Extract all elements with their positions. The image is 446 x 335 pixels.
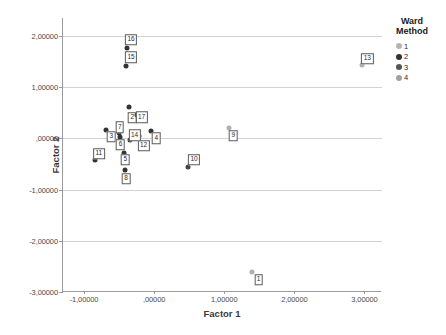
x-tick-label: ,00000 [143,295,165,304]
legend-label: 1 [404,42,408,51]
data-point-label: 10 [188,154,200,166]
gridline-horizontal [63,36,382,37]
y-tick-label: 2,00000 [5,31,63,40]
data-point-label: 1 [254,274,263,286]
legend-row[interactable]: 4 [396,73,446,82]
data-point[interactable] [126,104,131,109]
data-point-label: 13 [361,53,373,65]
legend-swatch-icon [396,43,402,49]
x-tick-label: 1,00000 [211,295,237,304]
legend-title-line1: Ward [388,16,436,26]
data-point-label: 11 [93,148,105,160]
data-point[interactable] [124,45,129,50]
data-point-label: 6 [116,139,125,151]
data-point[interactable] [122,168,127,173]
x-tick-label: 3,00000 [351,295,377,304]
scatter-plot-figure: Factor 2 Factor 1 2,000001,00000,00000-1… [0,0,446,335]
legend: Ward Method 1234 [388,16,446,84]
legend-title: Ward Method [388,16,436,37]
legend-swatch-icon [396,54,402,60]
y-tick-label: -1,00000 [5,185,63,194]
data-point-label: 15 [125,52,137,64]
legend-row[interactable]: 2 [396,52,446,61]
x-tick-label: -1,00000 [70,295,99,304]
plot-area: Factor 2 Factor 1 2,000001,00000,00000-1… [62,18,381,292]
x-tick-mark [154,291,155,294]
gridline-horizontal [63,241,382,242]
legend-label: 3 [404,63,408,72]
data-point-label: 4 [152,133,161,145]
x-tick-mark [84,291,85,294]
legend-row[interactable]: 3 [396,63,446,72]
y-tick-label: ,00000 [5,134,63,143]
legend-items: 1234 [388,42,446,83]
x-axis-title: Factor 1 [204,308,241,319]
y-tick-label: 1,00000 [5,83,63,92]
data-point-label: 5 [121,154,130,166]
data-point-label: 3 [107,131,116,143]
gridline-horizontal [63,87,382,88]
legend-label: 4 [404,73,408,82]
y-tick-label: -2,00000 [5,236,63,245]
data-point-label: 16 [125,34,137,46]
data-point-label: 17 [135,112,147,124]
data-point-label: 7 [115,121,124,133]
legend-title-line2: Method [388,26,436,36]
data-point[interactable] [124,63,129,68]
x-tick-mark [294,291,295,294]
gridline-horizontal [63,190,382,191]
data-point-label: 12 [138,140,150,152]
data-point-label: 9 [229,130,238,142]
x-tick-label: 2,00000 [281,295,307,304]
x-tick-mark [364,291,365,294]
legend-swatch-icon [396,64,402,70]
legend-row[interactable]: 1 [396,42,446,51]
y-tick-label: -3,00000 [5,288,63,297]
data-point-label: 8 [122,173,131,185]
legend-swatch-icon [396,75,402,81]
data-point-label: 14 [128,130,140,142]
x-tick-mark [224,291,225,294]
legend-label: 2 [404,52,408,61]
